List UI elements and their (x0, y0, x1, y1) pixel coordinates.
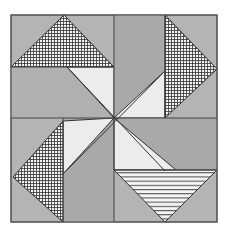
quilt-block-diagram (0, 0, 228, 235)
